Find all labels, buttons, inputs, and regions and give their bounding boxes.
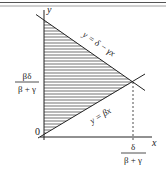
upper-line-equation: y = δ − γx — [80, 29, 117, 58]
top-rule — [0, 3, 166, 7]
y-intersection-label: βδ β + γ — [15, 71, 39, 94]
x-fraction-numerator: δ — [131, 142, 135, 152]
y-fraction-denominator: β + γ — [18, 84, 36, 94]
x-fraction-denominator: β + γ — [124, 155, 142, 165]
origin-label: 0 — [35, 126, 40, 137]
y-fraction-numerator: βδ — [23, 71, 32, 81]
x-axis-label: x — [151, 137, 157, 148]
y-axis-label: y — [46, 4, 52, 15]
lower-line-equation: y = βx — [87, 105, 113, 126]
diagram-canvas: y x 0 y = δ − γx y = βx βδ β + γ δ β + γ — [0, 0, 166, 174]
x-intersection-label: δ β + γ — [121, 142, 146, 165]
